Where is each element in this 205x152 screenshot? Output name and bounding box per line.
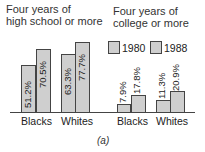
left-chart-title-line1: Four years of [6,3,71,15]
left-cat-whites: Whites [61,115,93,127]
legend-swatch-1988 [150,41,162,54]
label-col-blacks-1980: 7.9% [117,81,128,103]
label-col-whites-1980: 11.3% [156,73,167,99]
right-chart-title-line2: college or more [113,17,189,29]
left-x-axis [10,112,98,113]
label-hs-blacks-1988: 70.5% [37,61,48,88]
label-hs-whites-1988: 77.7% [76,54,87,81]
label-hs-blacks-1980: 51.2% [22,81,33,108]
bar-col-whites-1988 [170,91,185,113]
legend-swatch-1980 [108,41,120,54]
legend-label-1980: 1980 [122,42,145,54]
bar-col-blacks-1988 [131,95,146,113]
right-cat-blacks: Blacks [117,115,148,127]
label-hs-whites-1980: 63.3% [62,68,73,95]
label-col-whites-1988: 20.9% [170,64,181,91]
right-cat-whites: Whites [156,115,188,127]
label-col-blacks-1988: 17.8% [131,67,142,94]
figure-caption: (a) [97,135,109,146]
left-chart-title-line2: high school or more [6,15,103,27]
right-chart-title-line1: Four years of [113,5,178,17]
right-x-axis [98,112,195,113]
legend-label-1988: 1988 [164,42,187,54]
left-cat-blacks: Blacks [21,115,52,127]
